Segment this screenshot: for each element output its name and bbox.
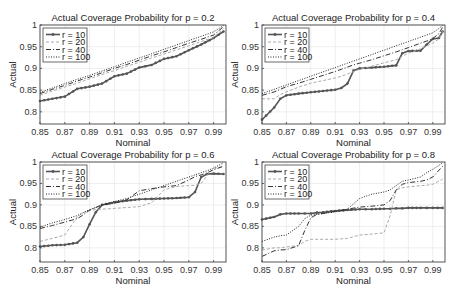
x-tick-label: 0.97 [180,127,198,137]
x-tick-label: 0.91 [106,127,124,137]
series-marker [289,212,292,215]
series-marker [84,86,87,89]
y-tick-label: 0.85 [19,221,37,231]
series-marker [175,55,178,58]
series-marker [265,114,268,117]
series-marker [134,68,137,71]
series-marker [175,197,178,200]
y-tick-label: 1 [254,157,259,167]
x-tick-label: 0.99 [205,265,223,275]
y-tick-label: 0.9 [24,63,37,73]
series-marker [407,50,410,53]
series-marker [47,98,50,101]
series-marker [389,207,392,210]
series-marker [121,73,124,76]
series-marker [322,90,325,93]
x-tick-label: 0.97 [400,127,418,137]
series-marker [395,64,398,67]
series-marker [310,91,313,94]
series-marker [297,212,300,215]
x-tick-label: 0.85 [253,127,271,137]
series-marker [171,197,174,200]
legend: r = 10r = 20r = 40r = 100 [265,165,312,199]
subplot-3: 0.850.870.890.910.930.950.970.990.80.850… [7,149,226,286]
x-tick-label: 0.87 [278,127,296,137]
series-marker [326,89,329,92]
series-marker [273,106,276,109]
series-marker [200,176,203,179]
series-marker [316,211,319,214]
series-marker [379,66,382,69]
legend-label: r = 100 [62,52,90,62]
x-tick-label: 0.93 [351,265,369,275]
series-marker [179,196,182,199]
y-tick-label: 0.95 [19,178,37,188]
series-marker [88,223,91,226]
series-marker [265,217,268,220]
x-tick-label: 0.85 [31,265,49,275]
series-marker [179,53,182,56]
series-marker [289,93,292,96]
x-tick-label: 0.85 [253,265,271,275]
series-marker [68,243,71,246]
series-marker [68,93,71,96]
series-marker [330,89,333,92]
x-tick-label: 0.93 [130,265,148,275]
series-marker [95,211,98,214]
series-marker [64,95,67,98]
series-marker [76,241,79,244]
y-tick-label: 1 [32,157,37,167]
series-marker [196,45,199,48]
series-marker [303,212,306,215]
x-axis-label: Nominal [336,137,371,148]
series-marker [183,51,186,54]
series-marker [279,98,282,101]
x-tick-label: 0.97 [180,265,198,275]
series-marker [318,90,321,93]
series-marker [375,66,378,69]
x-tick-label: 0.91 [326,127,344,137]
series-marker [273,216,276,219]
series-marker [346,82,349,85]
x-tick-label: 0.91 [326,265,344,275]
series-marker [297,92,300,95]
x-tick-label: 0.95 [155,265,173,275]
series-marker [194,191,197,194]
series-marker [364,208,367,211]
series-marker [411,207,414,210]
figure: 0.850.870.890.910.930.950.970.990.80.850… [0,0,459,294]
series-marker [425,207,428,210]
y-tick-label: 0.9 [24,200,37,210]
series-marker [138,198,141,201]
x-axis-label: Nominal [336,275,371,286]
x-tick-label: 0.99 [424,265,442,275]
series-marker [138,66,141,69]
series-marker [269,110,272,113]
x-tick-label: 0.89 [81,265,99,275]
y-tick-label: 1 [254,20,259,30]
x-tick-label: 0.87 [278,265,296,275]
series-marker [72,90,75,93]
y-tick-label: 0.8 [24,107,37,117]
series-marker [204,41,207,44]
legend-label: r = 100 [284,52,312,62]
x-axis-label: Nominal [116,275,151,286]
series-marker [285,212,288,215]
y-tick-label: 0.85 [241,221,259,231]
series-marker [72,242,75,245]
series-marker [109,77,112,80]
series-marker [150,64,153,67]
legend-marker [274,33,277,36]
series-marker [334,88,337,91]
series-marker [163,197,166,200]
series-marker [64,244,67,247]
y-tick-label: 0.85 [241,85,259,95]
series-marker [293,93,296,96]
legend-label: r = 100 [62,189,90,199]
legend-label: r = 100 [284,189,312,199]
series-marker [358,208,361,211]
x-tick-label: 0.93 [351,127,369,137]
series-marker [432,207,435,210]
series-marker [375,208,378,211]
series-marker [441,207,444,210]
